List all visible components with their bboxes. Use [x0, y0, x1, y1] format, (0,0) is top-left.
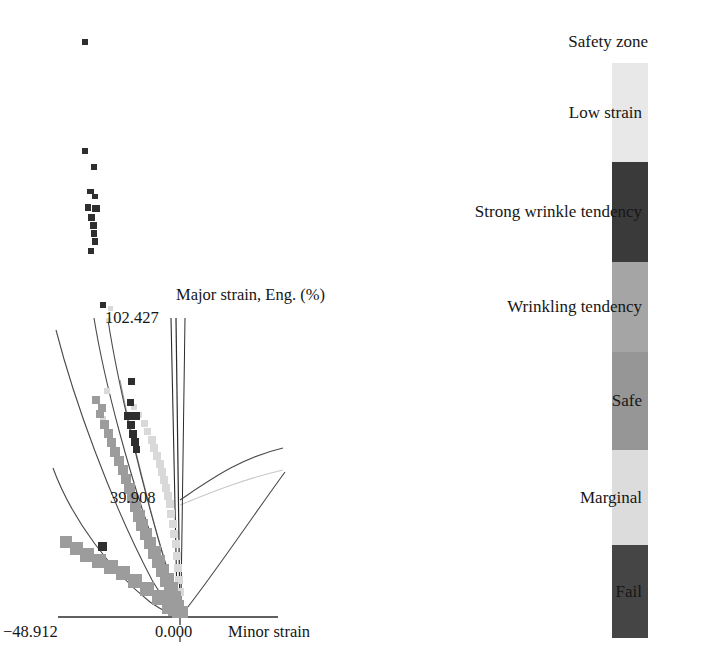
legend-label-strong-wrinkle-tendency: Strong wrinkle tendency	[475, 203, 642, 220]
y-axis-tick-max: 102.427	[105, 308, 159, 328]
y-axis-tick-mid: 39.908	[110, 488, 155, 508]
curve-faint-right	[180, 470, 283, 505]
y-axis-title: Major strain, Eng. (%)	[176, 285, 325, 305]
x-axis-tick-min: −48.912	[3, 622, 58, 642]
plot-canvas	[0, 0, 360, 663]
legend-label-wrinkling-tendency: Wrinkling tendency	[507, 298, 642, 315]
legend-label-safe: Safe	[612, 392, 642, 409]
legend-label-fail: Fail	[616, 583, 642, 600]
legend-label-marginal: Marginal	[580, 489, 642, 506]
plot-area: Major strain, Eng. (%) Minor strain −48.…	[0, 0, 360, 663]
fld-figure: Major strain, Eng. (%) Minor strain −48.…	[0, 0, 702, 663]
legend-color-bar	[612, 63, 648, 638]
right-curve-group	[180, 448, 285, 617]
legend-area: Safety zone Low strainStrong wrinkle ten…	[360, 0, 702, 663]
x-axis-title: Minor strain	[228, 622, 310, 642]
legend-title: Safety zone	[568, 32, 648, 52]
curve-shear-line	[180, 472, 285, 617]
axis-stem-right	[181, 318, 185, 600]
legend-label-low-strain: Low strain	[569, 104, 642, 121]
vertical-axis-group	[171, 318, 185, 617]
x-axis-tick-zero: 0.000	[155, 622, 192, 642]
